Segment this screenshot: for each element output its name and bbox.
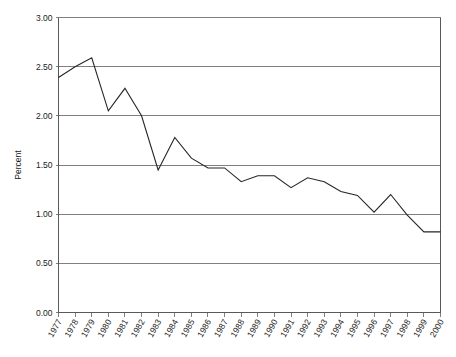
x-tick-label: 1980 — [95, 317, 113, 339]
x-tick-label: 1977 — [46, 317, 64, 339]
x-tick-label: 1999 — [411, 317, 429, 339]
x-tick-label: 1987 — [212, 317, 230, 339]
x-axis-tick-marks — [59, 313, 441, 317]
y-tick-label: 3.00 — [36, 13, 53, 23]
data-series-line — [59, 58, 441, 232]
x-tick-label: 1993 — [311, 317, 329, 339]
y-tick-label: 1.00 — [36, 209, 53, 219]
x-tick-label: 1981 — [112, 317, 130, 339]
x-tick-label: 1996 — [361, 317, 379, 339]
y-tick-label: 2.00 — [36, 111, 53, 121]
line-chart: 0.000.501.001.502.002.503.00 19771978197… — [0, 0, 456, 357]
x-tick-label: 1986 — [195, 317, 213, 339]
x-tick-label: 1989 — [245, 317, 263, 339]
x-tick-label: 2000 — [428, 317, 446, 339]
x-tick-label: 1983 — [145, 317, 163, 339]
x-tick-label: 1994 — [328, 317, 346, 339]
y-tick-label: 2.50 — [36, 62, 53, 72]
x-tick-label: 1991 — [278, 317, 296, 339]
y-tick-label: 0.50 — [36, 258, 53, 268]
y-axis-tick-labels: 0.000.501.001.502.002.503.00 — [36, 13, 53, 318]
x-tick-label: 1992 — [295, 317, 313, 339]
x-tick-label: 1997 — [378, 317, 396, 339]
x-tick-label: 1979 — [79, 317, 97, 339]
x-axis-tick-labels: 1977197819791980198119821983198419851986… — [46, 317, 446, 339]
x-tick-label: 1998 — [394, 317, 412, 339]
x-tick-label: 1982 — [129, 317, 147, 339]
y-tick-label: 1.50 — [36, 160, 53, 170]
x-tick-label: 1995 — [345, 317, 363, 339]
y-axis-title: Percent — [13, 150, 23, 180]
x-tick-label: 1984 — [162, 317, 180, 339]
gridlines — [59, 18, 441, 313]
x-tick-label: 1988 — [228, 317, 246, 339]
x-tick-label: 1990 — [262, 317, 280, 339]
chart-container: 0.000.501.001.502.002.503.00 19771978197… — [0, 0, 456, 357]
y-tick-label: 0.00 — [36, 308, 53, 318]
x-tick-label: 1985 — [178, 317, 196, 339]
x-tick-label: 1978 — [62, 317, 80, 339]
